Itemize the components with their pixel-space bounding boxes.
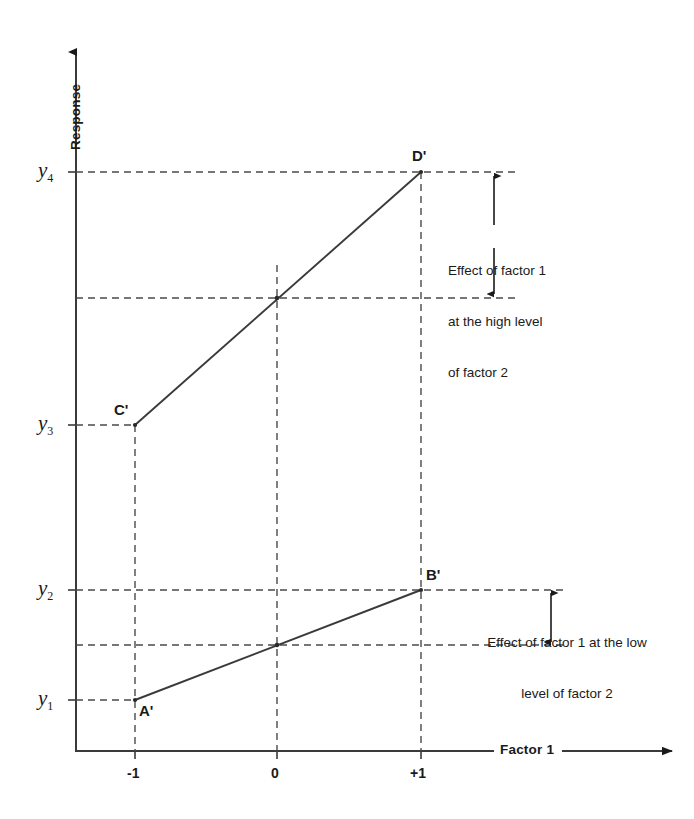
point-label-d-prime: D'	[412, 147, 426, 164]
x-tick-label-plus1: +1	[410, 765, 426, 781]
annotation-low-line1: Effect of factor 1 at the low	[452, 634, 682, 651]
y-tick-label-y3-base: y	[38, 411, 47, 435]
annotation-high-line1: Effect of factor 1	[448, 262, 648, 279]
y-tick-label-y2-base: y	[38, 576, 47, 600]
vertical-reference-lines	[135, 172, 421, 751]
point-label-c-prime: C'	[114, 401, 128, 418]
x-tick-label-zero: 0	[271, 765, 279, 781]
annotation-low-line2: level of factor 2	[452, 685, 682, 702]
data-point-markers	[133, 170, 423, 702]
annotation-high-line2: at the high level	[448, 313, 648, 330]
point-high-midpoint	[275, 296, 280, 301]
y-tick-label-y4-base: y	[38, 158, 47, 182]
annotation-high-level: Effect of factor 1 at the high level of …	[448, 228, 648, 415]
y-tick-marks	[68, 172, 76, 700]
point-low-midpoint	[275, 643, 280, 648]
point-a-prime	[133, 698, 137, 702]
y-tick-label-y3-sub: 3	[47, 424, 53, 438]
point-d-prime	[419, 170, 423, 174]
interaction-plot-figure: Response Factor 1 y4 y3 y2 y1 -1 0 +1 A'…	[0, 0, 694, 819]
point-label-b-prime: B'	[426, 566, 440, 583]
y-tick-label-y1: y1	[38, 686, 53, 714]
y-tick-label-y1-base: y	[38, 686, 47, 710]
x-tick-label-minus1: -1	[127, 765, 139, 781]
y-tick-label-y4-sub: 4	[47, 171, 53, 185]
point-c-prime	[133, 423, 137, 427]
y-tick-label-y1-sub: 1	[47, 699, 53, 713]
x-tick-marks	[135, 751, 421, 759]
y-tick-label-y2-sub: 2	[47, 589, 53, 603]
y-tick-label-y3: y3	[38, 411, 53, 439]
annotation-low-level: Effect of factor 1 at the low level of f…	[452, 600, 682, 736]
annotation-high-line3: of factor 2	[448, 364, 648, 381]
y-tick-label-y4: y4	[38, 158, 53, 186]
point-label-a-prime: A'	[139, 702, 153, 719]
y-tick-label-y2: y2	[38, 576, 53, 604]
x-axis-label: Factor 1	[500, 742, 554, 757]
y-axis-label: Response	[68, 84, 83, 150]
point-b-prime	[419, 588, 423, 592]
